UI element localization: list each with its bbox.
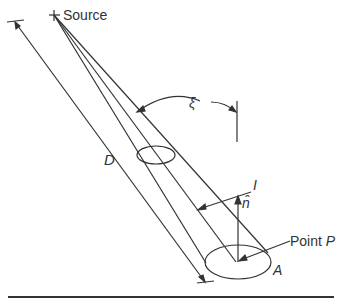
normal-label: n̂ — [242, 196, 250, 210]
angle-label: ξ — [189, 96, 195, 110]
point-prefix: Point — [290, 233, 326, 249]
angle-arc — [137, 96, 237, 142]
beam-cone — [54, 15, 268, 263]
small-ellipse — [137, 146, 175, 164]
area-label: A — [273, 263, 282, 277]
diagram-canvas: Source D ξ I n̂ Point P A — [0, 0, 347, 303]
source-label: Source — [63, 8, 107, 22]
intensity-label: I — [253, 178, 257, 192]
point-var: P — [326, 233, 335, 249]
distance-label: D — [104, 152, 115, 167]
point-p-label: Point P — [290, 234, 335, 248]
diagram-drawing — [0, 0, 347, 303]
point-p-arrow — [239, 241, 290, 261]
normal-vector — [235, 196, 241, 262]
